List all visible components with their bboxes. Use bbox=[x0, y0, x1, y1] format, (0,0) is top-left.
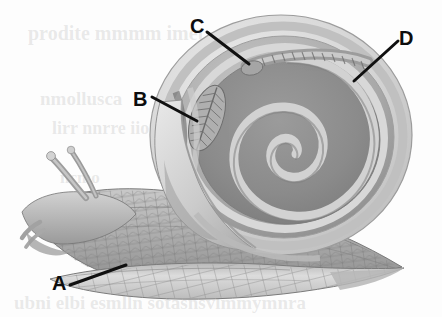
label-a: A bbox=[52, 273, 66, 293]
label-b: B bbox=[133, 89, 147, 109]
label-d: D bbox=[399, 28, 413, 48]
ocular-tentacle-upper bbox=[47, 152, 86, 198]
label-c: C bbox=[190, 16, 204, 36]
shell-group bbox=[150, 15, 412, 259]
snail-anatomy-figure: prodite mmmm imet nmollusca lirr nnrre i… bbox=[0, 0, 442, 317]
snail-illustration bbox=[0, 0, 442, 317]
